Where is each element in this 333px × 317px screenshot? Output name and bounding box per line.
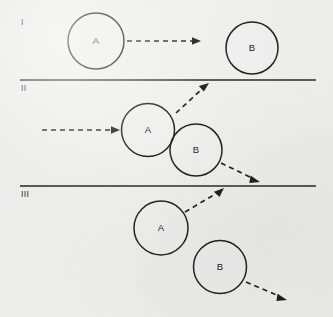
arrow-b-deflected-row-2 [221, 163, 252, 178]
collision-figure: I II III A B A B A B [0, 0, 333, 317]
row-1-group [20, 13, 316, 80]
row-numeral-3: III [21, 190, 29, 199]
figure-canvas [0, 0, 333, 317]
ball-label-b-row-2: B [193, 145, 199, 155]
arrow-a-outgoing-row-3 [185, 193, 217, 212]
arrow-b-outgoing-row-3-head [276, 294, 287, 301]
ball-label-b-row-1: B [249, 43, 255, 53]
arrow-a-incoming-row-1-head [192, 37, 201, 44]
arrow-b-deflected-row-2-head [249, 176, 260, 183]
arrow-a-incoming-row-2-head [111, 126, 120, 133]
ball-label-a-row-2: A [145, 125, 151, 135]
arrow-a-outgoing-row-3-head [214, 188, 224, 197]
row-numeral-1: I [21, 18, 24, 27]
arrow-a-deflected-row-2-head [199, 83, 209, 92]
ball-label-a-row-3: A [158, 223, 164, 233]
row-2-group [20, 83, 316, 186]
row-numeral-2: II [21, 84, 27, 93]
arrow-b-outgoing-row-3 [246, 282, 279, 296]
row-3-group [134, 188, 287, 301]
ball-label-b-row-3: B [217, 262, 223, 272]
arrow-a-deflected-row-2 [176, 89, 202, 113]
ball-label-a-row-1: A [93, 36, 99, 46]
